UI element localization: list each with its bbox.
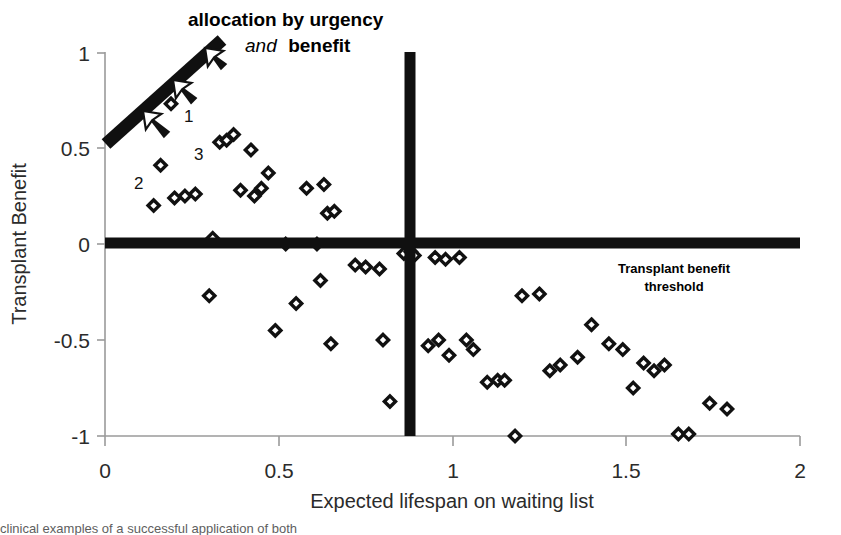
- y-tick-label-0_5: 0.5: [61, 137, 90, 160]
- data-point: [423, 340, 434, 351]
- axes-group: [97, 52, 800, 446]
- data-point: [555, 359, 566, 370]
- data-point: [683, 428, 694, 439]
- data-point: [301, 183, 312, 194]
- x-tick-label-1: 1: [447, 459, 459, 482]
- data-point: [148, 200, 159, 211]
- data-point: [249, 190, 260, 201]
- data-point: [433, 334, 444, 345]
- data-point: [440, 254, 451, 265]
- data-point: [329, 206, 340, 217]
- x-tick-label-0: 0: [99, 459, 111, 482]
- data-point: [468, 344, 479, 355]
- data-point: [291, 298, 302, 309]
- data-point: [648, 365, 659, 376]
- point-label-3: 3: [194, 145, 203, 164]
- x-tick-label-0_5: 0.5: [264, 459, 293, 482]
- data-point: [360, 261, 371, 272]
- data-point: [179, 190, 190, 201]
- threshold-label-line2: threshold: [644, 279, 703, 294]
- data-point: [482, 377, 493, 388]
- threshold-label-line1: Transplant benefit: [618, 261, 731, 276]
- data-point: [704, 398, 715, 409]
- data-point: [165, 98, 176, 109]
- data-point: [155, 160, 166, 171]
- page-caption: clinical examples of a successful applic…: [0, 521, 841, 535]
- data-point: [190, 188, 201, 199]
- data-point: [315, 275, 326, 286]
- data-point: [638, 357, 649, 368]
- data-point: [430, 252, 441, 263]
- y-tick-label-0: 0: [78, 233, 90, 256]
- data-point: [509, 430, 520, 441]
- data-point: [534, 288, 545, 299]
- data-point: [603, 338, 614, 349]
- data-point: [235, 185, 246, 196]
- allocation-callout-benefit: benefit: [288, 35, 351, 56]
- allocation-callout-line1: allocation by urgency: [188, 9, 384, 30]
- data-point: [325, 338, 336, 349]
- point-label-2: 2: [134, 174, 143, 193]
- data-point: [516, 290, 527, 301]
- chart-canvas: 1 0.5 0 -0.5 -1 0 0.5 1 1.5 2 Expected l…: [0, 0, 841, 535]
- point-label-1: 1: [184, 107, 193, 126]
- data-point: [228, 129, 239, 140]
- data-point: [169, 192, 180, 203]
- y-tick-label-neg1: -1: [71, 425, 90, 448]
- data-point: [350, 260, 361, 271]
- data-point: [499, 375, 510, 386]
- data-point: [659, 359, 670, 370]
- data-point: [721, 404, 732, 415]
- scatter-chart-figure: 1 0.5 0 -0.5 -1 0 0.5 1 1.5 2 Expected l…: [0, 0, 841, 535]
- data-point: [461, 334, 472, 345]
- data-point: [544, 365, 555, 376]
- data-point: [204, 290, 215, 301]
- allocation-callout-line2: and benefit: [245, 35, 351, 56]
- data-point: [384, 396, 395, 407]
- data-point: [572, 352, 583, 363]
- y-tick-label-1: 1: [78, 42, 90, 65]
- x-axis-title: Expected lifespan on waiting list: [310, 490, 594, 512]
- data-point: [586, 319, 597, 330]
- y-axis-title: Transplant Benefit: [8, 163, 30, 325]
- x-tick-label-1_5: 1.5: [611, 459, 640, 482]
- x-tick-label-2: 2: [794, 459, 806, 482]
- data-point: [263, 167, 274, 178]
- data-point: [377, 334, 388, 345]
- allocation-callout-and: and: [245, 35, 278, 56]
- data-point: [318, 179, 329, 190]
- data-point: [617, 344, 628, 355]
- data-point: [454, 252, 465, 263]
- data-point: [374, 263, 385, 274]
- allocation-arrows-group: [135, 40, 232, 143]
- y-tick-label-neg0_5: -0.5: [54, 329, 90, 352]
- data-point: [245, 144, 256, 155]
- data-point: [270, 325, 281, 336]
- data-point: [628, 382, 639, 393]
- data-point: [443, 350, 454, 361]
